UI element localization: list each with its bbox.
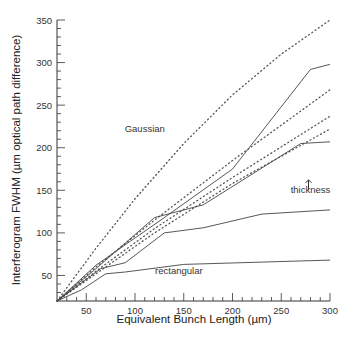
y-tick-label: 300: [36, 57, 52, 68]
chart: 5010015020025030050100150200250300350 Ga…: [0, 0, 352, 338]
x-tick-label: 50: [81, 305, 92, 316]
y-tick-label: 100: [36, 227, 52, 238]
series-solid-2: [57, 142, 330, 301]
x-tick-label: 250: [273, 305, 289, 316]
annotation-rectangular: rectangular: [155, 265, 203, 276]
x-tick-label: 300: [322, 305, 338, 316]
annotation-Gaussian: Gaussian: [125, 123, 165, 134]
x-axis-title: Equivalent Bunch Length (µm): [117, 313, 272, 325]
series-gaussian-dotted-1: [57, 20, 330, 301]
y-tick-label: 150: [36, 185, 52, 196]
series-solid-3: [57, 210, 330, 301]
y-tick-label: 250: [36, 100, 52, 111]
y-tick-label: 200: [36, 142, 52, 153]
series-group: [57, 20, 330, 301]
y-tick-label: 50: [41, 270, 52, 281]
y-tick-label: 350: [36, 15, 52, 26]
annotation-thickness: thickness: [291, 184, 331, 195]
y-axis-title: Interferogram FWHM (µm optical path diff…: [10, 35, 22, 286]
